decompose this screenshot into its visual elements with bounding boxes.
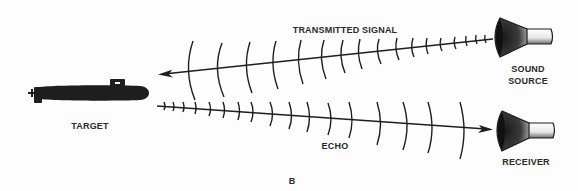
sound-source-label-line2: SOURCE <box>498 75 558 87</box>
transmitted-signal-label: TRANSMITTED SIGNAL <box>280 24 410 36</box>
sound-source-label-line1: SOUND <box>498 63 558 75</box>
sonar-diagram: TRANSMITTED SIGNAL SOUND SOURCE TARGET E… <box>0 0 578 191</box>
receiver-transducer-icon <box>497 111 555 151</box>
target-label: TARGET <box>60 120 120 132</box>
sound-source-transducer-icon <box>495 18 553 57</box>
submarine-icon <box>28 79 149 103</box>
transmitted-signal-arrow <box>158 35 493 100</box>
echo-label: ECHO <box>310 140 360 152</box>
receiver-label: RECEIVER <box>493 156 559 168</box>
panel-label: B <box>282 175 302 187</box>
